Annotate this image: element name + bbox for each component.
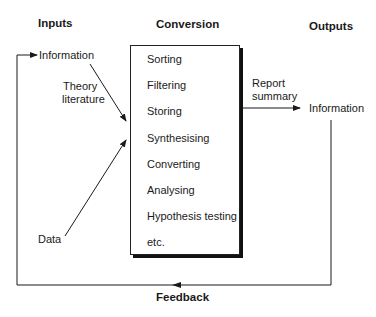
outputs-heading: Outputs [309,20,353,33]
feedback-arrow-icon [172,282,181,288]
feedback-label: Feedback [156,291,209,304]
conversion-item: Synthesising [147,132,209,144]
report-label-line2: summary [252,90,297,103]
conversion-heading: Conversion [156,18,219,31]
conversion-box: Sorting Filtering Storing Synthesising C… [130,45,240,255]
conversion-item: etc. [147,236,165,248]
theory-label-line1: Theory [63,80,97,93]
conversion-item: Analysing [147,184,195,196]
conversion-item: Converting [147,158,200,170]
data-to-conversion-arrow [65,140,126,236]
conversion-item: Hypothesis testing [147,210,237,222]
output-information-label: Information [309,102,364,115]
input-information-label: Information [39,49,94,62]
report-label-line1: Report [252,77,285,90]
inputs-heading: Inputs [38,17,73,30]
conversion-item: Filtering [147,79,186,91]
conversion-item: Sorting [147,53,182,65]
input-data-label: Data [38,233,61,246]
theory-label-line2: literature [62,93,105,106]
conversion-item: Storing [147,105,182,117]
